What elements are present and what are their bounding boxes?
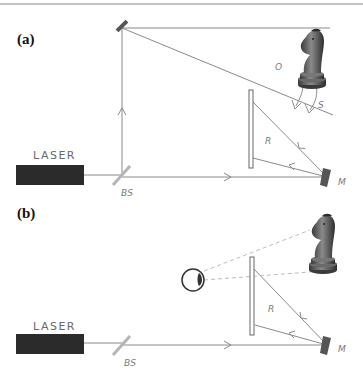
bs-label: BS	[121, 188, 133, 198]
holographic-plate	[250, 257, 254, 335]
chess-knight-icon	[309, 214, 337, 274]
mirror-m	[320, 168, 331, 187]
holographic-plate	[249, 90, 253, 168]
panel-b-label: (b)	[17, 205, 35, 222]
bs-label: BS	[124, 358, 136, 368]
laser-body	[16, 165, 84, 185]
mirror-m-label: M	[338, 177, 346, 187]
panel-a-label: (a)	[17, 31, 35, 48]
reference-beam-label: R	[268, 304, 274, 314]
chess-knight-icon	[298, 29, 326, 89]
reference-beam-label: R	[265, 136, 271, 146]
laser-label: LASER	[33, 320, 76, 333]
panel-a: (a) LASER	[16, 20, 346, 198]
laser-label: LASER	[33, 149, 76, 162]
holography-diagram: (a) LASER	[0, 0, 363, 380]
mirror-m-label: M	[338, 344, 346, 354]
laser-body	[16, 334, 84, 354]
arrow-r-diag	[298, 142, 306, 150]
eye-icon	[182, 269, 204, 291]
beams-a	[84, 28, 333, 177]
scattered-label: S	[318, 100, 324, 110]
object-beam-label: O	[275, 62, 282, 72]
panel-b: (b) LASER BS M R	[16, 205, 346, 368]
